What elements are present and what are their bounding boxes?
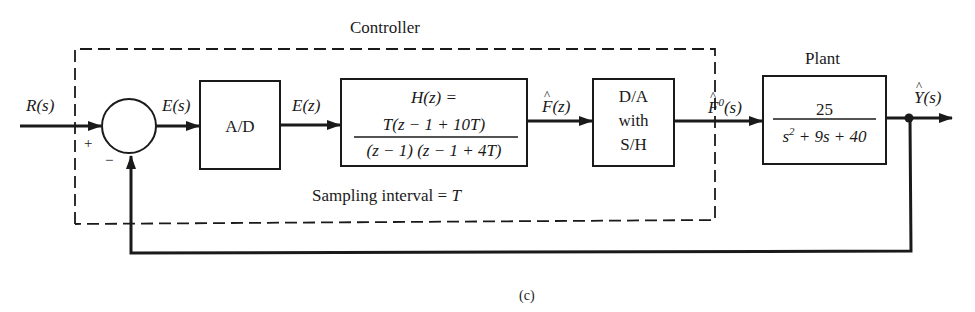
sampling-note: Sampling interval = T <box>312 187 461 204</box>
plant-denominator: s2 + 9s + 40 <box>763 126 886 145</box>
controller-output-letter: F <box>542 98 552 115</box>
adc-label: A/D <box>200 118 280 135</box>
plant-label: Plant <box>805 50 840 67</box>
output-letter: Y <box>914 89 923 106</box>
minus-sign: − <box>105 153 113 168</box>
dac-line1: D/A <box>593 88 674 105</box>
error-s-label: E(s) <box>162 97 190 114</box>
controller-denominator: (z − 1) (z − 1 + 4T) <box>341 142 527 159</box>
dac-line2: with <box>593 112 674 129</box>
output-signal-label: Y(s) <box>914 89 941 106</box>
plant-denominator-rest: + 9s + 40 <box>795 127 867 146</box>
plus-sign: + <box>84 136 92 151</box>
error-z-label: E(z) <box>292 97 320 114</box>
controller-numerator: T(z − 1 + 10T) <box>341 116 527 133</box>
sampling-note-var: T <box>451 186 460 205</box>
sampling-note-text: Sampling interval = <box>312 186 451 205</box>
controller-label: Controller <box>350 19 420 36</box>
plant-block <box>763 76 886 164</box>
controller-output-arg: (z) <box>552 97 570 116</box>
dac-output-arg: (s) <box>724 98 742 117</box>
dac-output-label: F0(s) <box>708 97 742 116</box>
input-signal-label: R(s) <box>26 97 54 114</box>
output-arg: (s) <box>923 88 941 107</box>
dac-output-letter: F <box>708 99 718 116</box>
controller-output-label: F(z) <box>542 98 570 115</box>
dac-line3: S/H <box>593 136 674 153</box>
figure-caption: (c) <box>519 289 535 303</box>
plant-numerator: 25 <box>763 101 886 118</box>
controller-title: H(z) = <box>341 89 527 106</box>
summing-junction <box>102 99 156 153</box>
